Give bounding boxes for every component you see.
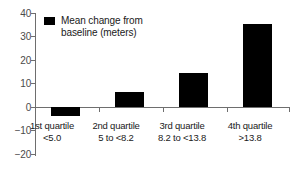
legend: Mean change from baseline (meters): [44, 15, 143, 39]
y-tick-label-minus-20: −20: [3, 150, 31, 160]
bar-1st-quartile: [51, 107, 80, 116]
x-label-4th-quartile: 4th quartile >13.8: [212, 120, 288, 144]
y-tick-label-40: 40: [3, 9, 31, 19]
y-tick-0: 0: [0, 103, 31, 113]
x-label-name-4: 4th quartile: [228, 120, 273, 131]
bar-chart: 40 30 20 10 0 −10 −20 Mean change from b…: [0, 0, 302, 173]
bar-2nd-quartile: [115, 92, 144, 107]
x-label-name-3: 3rd quartile: [159, 120, 204, 131]
y-tick-label-30: 30: [3, 32, 31, 42]
y-tick-label-10: 10: [3, 79, 31, 89]
legend-swatch-icon: [44, 17, 55, 25]
y-tick-40: 40: [0, 9, 31, 19]
legend-label: Mean change from baseline (meters): [61, 15, 143, 39]
bar-4th-quartile: [243, 24, 272, 107]
y-tick-label-0: 0: [3, 103, 31, 113]
bar-3rd-quartile: [179, 73, 208, 107]
y-tick-20: 20: [0, 56, 31, 66]
y-tick-label-20: 20: [3, 56, 31, 66]
y-tick-10: 10: [0, 79, 31, 89]
y-tick-30: 30: [0, 32, 31, 42]
x-label-name-2: 2nd quartile: [92, 120, 139, 131]
x-label-range-4: >13.8: [212, 132, 288, 144]
y-tick-minus-20: −20: [0, 150, 31, 160]
x-label-name-1: 1st quartile: [30, 120, 74, 131]
